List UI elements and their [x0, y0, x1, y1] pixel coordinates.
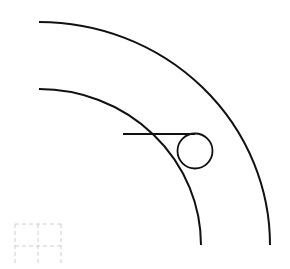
diagram-canvas: [0, 0, 290, 269]
dashed-grid-icon: [15, 224, 61, 266]
inner-arc: [39, 89, 201, 245]
small-circle: [178, 134, 213, 169]
